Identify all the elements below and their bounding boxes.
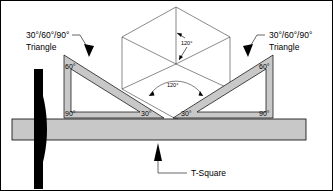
arc-arrowhead-left: [149, 91, 155, 96]
triangle-right: [173, 55, 273, 118]
triangle-right-angle-30: 30°: [181, 110, 192, 117]
triangle-right-label-line1: 30°/60°/90°: [269, 30, 312, 40]
t-square: [12, 69, 306, 189]
triangle-right-angle-60: 60°: [259, 63, 270, 70]
triangle-left: [64, 55, 164, 118]
cube-lower-angle-label: 120°: [167, 82, 178, 88]
cube-edge-lower-right: [176, 64, 230, 89]
triangle-right-label-line2: Triangle: [269, 42, 300, 52]
t-square-blade: [12, 119, 306, 140]
technical-drawing: 120° 120° 60° 90° 30° 60° 90° 30°: [1, 1, 333, 191]
cube-edge-top-left: [122, 37, 176, 64]
triangle-right-body: [173, 55, 273, 118]
cube-vertical-angle-annotation: 120°: [177, 33, 192, 60]
triangle-left-angle-90: 90°: [65, 110, 76, 117]
diagram-canvas: 120° 120° 60° 90° 30° 60° 90° 30°: [0, 0, 333, 191]
leader-t-square: [154, 143, 187, 173]
triangle-left-label-line2: Triangle: [26, 42, 57, 52]
triangle-right-angle-90: 90°: [259, 110, 270, 117]
arrowhead-lower: [179, 55, 183, 60]
cube-vertical-angle-label: 120°: [181, 40, 192, 46]
leader-triangle-left: [72, 35, 94, 57]
arrowhead-triangle-right: [243, 44, 253, 57]
arrowhead-upper: [177, 33, 182, 37]
triangle-left-angle-30: 30°: [141, 110, 152, 117]
t-square-head-bar: [34, 69, 43, 189]
arrowhead-tsquare: [154, 143, 162, 161]
triangle-left-body: [64, 55, 164, 118]
arrowhead-triangle-left: [84, 44, 94, 57]
cube-lower-angle-annotation: 120°: [149, 81, 203, 96]
arc-arrowhead-right: [199, 91, 204, 96]
triangle-left-angle-60: 60°: [65, 63, 76, 70]
t-square-label: T-Square: [191, 168, 226, 178]
triangle-left-label-line1: 30°/60°/90°: [26, 30, 69, 40]
leader-triangle-right: [243, 35, 265, 57]
